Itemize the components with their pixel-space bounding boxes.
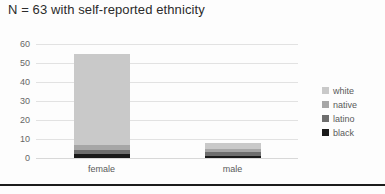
legend-swatch-icon xyxy=(322,129,329,136)
plot-area: femalemale xyxy=(36,44,298,158)
y-axis: 0102030405060 xyxy=(8,44,30,158)
chart-container: N = 63 with self-reported ethnicity 0102… xyxy=(0,0,385,194)
legend-item-latino[interactable]: latino xyxy=(322,112,382,125)
y-tick-label: 30 xyxy=(20,96,30,106)
legend-item-black[interactable]: black xyxy=(322,126,382,139)
bar-segment-white[interactable] xyxy=(74,54,130,145)
legend-label: white xyxy=(333,86,354,96)
y-tick-label: 0 xyxy=(25,153,30,163)
y-tick-label: 40 xyxy=(20,77,30,87)
legend-swatch-icon xyxy=(322,115,329,122)
chart-title: N = 63 with self-reported ethnicity xyxy=(8,2,205,17)
stacked-bar[interactable] xyxy=(74,54,130,158)
chart-legend: whitenativelatinoblack xyxy=(322,84,382,140)
stacked-bar[interactable] xyxy=(205,143,261,158)
x-tick-label-male: male xyxy=(167,164,298,174)
legend-item-white[interactable]: white xyxy=(322,84,382,97)
y-tick-label: 60 xyxy=(20,39,30,49)
legend-item-native[interactable]: native xyxy=(322,98,382,111)
legend-swatch-icon xyxy=(322,87,329,94)
axis-baseline xyxy=(36,158,298,159)
legend-swatch-icon xyxy=(322,101,329,108)
legend-label: native xyxy=(333,100,357,110)
legend-label: latino xyxy=(333,114,355,124)
y-tick-label: 50 xyxy=(20,58,30,68)
y-tick-label: 20 xyxy=(20,115,30,125)
legend-label: black xyxy=(333,128,354,138)
x-tick-label-female: female xyxy=(36,164,167,174)
bottom-divider xyxy=(0,184,385,186)
y-tick-label: 10 xyxy=(20,134,30,144)
bar-group-male[interactable] xyxy=(205,44,261,158)
bar-group-female[interactable] xyxy=(74,44,130,158)
